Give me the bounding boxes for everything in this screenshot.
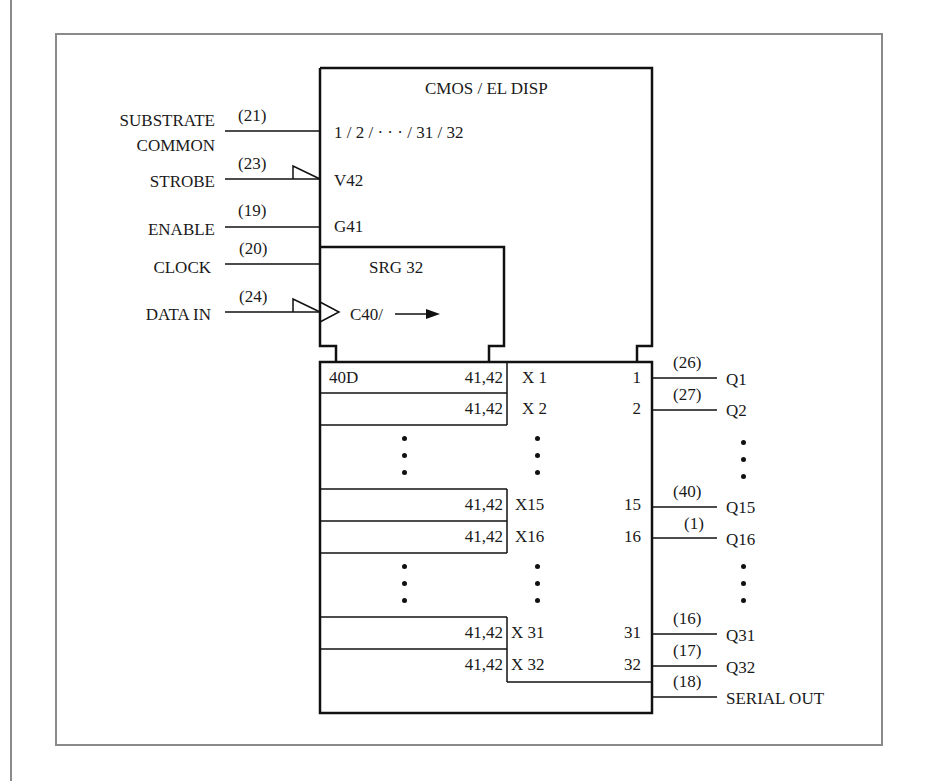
- block-title: CMOS / EL DISP: [425, 79, 548, 99]
- row2-cell: X 2: [522, 399, 547, 419]
- row31-cell: X 31: [511, 623, 545, 643]
- row2-dependency: 41,42: [430, 399, 503, 419]
- output-q2-label: Q2: [726, 401, 747, 421]
- output-q1-label: Q1: [726, 370, 747, 390]
- input-enable-label: ENABLE: [80, 220, 215, 240]
- output-q15-pin: (40): [673, 482, 701, 502]
- serial-out-label: SERIAL OUT: [726, 689, 824, 709]
- output-q15-label: Q15: [726, 498, 755, 518]
- row16-out-num: 16: [600, 527, 641, 547]
- row32-dependency: 41,42: [430, 655, 503, 675]
- row32-out-num: 32: [600, 655, 641, 675]
- row15-dependency: 41,42: [430, 495, 503, 515]
- row31-dependency: 41,42: [430, 623, 503, 643]
- input-data-in-pin: (24): [239, 287, 267, 307]
- input-enable-pin: (19): [238, 201, 266, 221]
- row15-out-num: 15: [600, 495, 641, 515]
- row1-dependency: 41,42: [430, 368, 503, 388]
- input-clock-label: CLOCK: [80, 258, 211, 278]
- output-q31-label: Q31: [726, 626, 755, 646]
- row16-cell: X16: [515, 527, 544, 547]
- srg-title: SRG 32: [369, 258, 423, 278]
- input-clock-pin: (20): [239, 239, 267, 259]
- output-q2-pin: (27): [673, 385, 701, 405]
- ellipsis-dots: [534, 436, 540, 487]
- input-strobe-label: STROBE: [80, 172, 215, 192]
- input-substrate-label: SUBSTRATE: [80, 111, 215, 131]
- ellipsis-dots: [740, 440, 746, 491]
- serial-out-pin: (18): [673, 672, 701, 692]
- row32-cell: X 32: [511, 655, 545, 675]
- strobe-qualifier: V42: [334, 171, 363, 191]
- row2-out-num: 2: [600, 399, 641, 419]
- input-substrate-pin: (21): [238, 106, 266, 126]
- output-q1-pin: (26): [673, 353, 701, 373]
- output-q16-label: Q16: [726, 530, 755, 550]
- output-q16-pin: (1): [684, 514, 704, 534]
- input-common-label: COMMON: [80, 136, 215, 156]
- ellipsis-dots: [401, 436, 407, 487]
- input-data-in-label: DATA IN: [80, 305, 211, 325]
- row1-cell: X 1: [522, 368, 547, 388]
- input-strobe-pin: (23): [238, 154, 266, 174]
- output-q32-pin: (17): [673, 641, 701, 661]
- clock-qualifier: C40/: [350, 305, 383, 325]
- row16-dependency: 41,42: [430, 527, 503, 547]
- common-qualifier: 1 / 2 / · · · / 31 / 32: [334, 123, 463, 143]
- ellipsis-dots: [534, 564, 540, 615]
- ellipsis-dots: [740, 564, 746, 615]
- row15-cell: X15: [515, 495, 544, 515]
- row31-out-num: 31: [600, 623, 641, 643]
- shift-arrow-icon: [426, 309, 440, 319]
- output-q32-label: Q32: [726, 658, 755, 678]
- enable-qualifier: G41: [334, 217, 363, 237]
- ellipsis-dots: [401, 564, 407, 615]
- output-q31-pin: (16): [673, 609, 701, 629]
- row1-mode-label: 40D: [329, 368, 358, 388]
- row1-out-num: 1: [600, 368, 641, 388]
